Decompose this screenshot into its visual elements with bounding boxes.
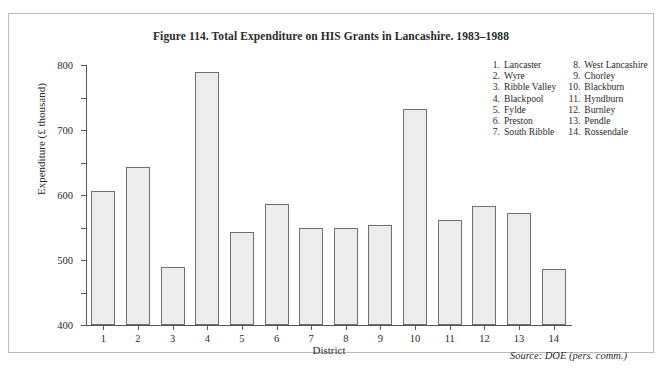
x-axis-tick (207, 325, 208, 330)
y-axis-tick: 800 (81, 65, 86, 66)
bar (230, 232, 254, 325)
x-axis-tick (380, 325, 381, 330)
bar (542, 269, 566, 325)
y-axis-tick-label: 600 (57, 190, 73, 201)
bar (507, 213, 531, 325)
x-axis-tick-label: 7 (309, 333, 314, 344)
legend-item: 9. Chorley (565, 70, 647, 81)
y-axis-tick: 100 (81, 293, 86, 294)
x-axis-line (86, 325, 572, 326)
x-axis-tick-label: 3 (170, 333, 175, 344)
bar (91, 191, 115, 325)
x-axis-tick (346, 325, 347, 330)
figure-title: Figure 114. Total Expenditure on HIS Gra… (9, 30, 653, 42)
y-axis-title: Expenditure (£ thousand) (35, 83, 47, 195)
x-axis-tick (242, 325, 243, 330)
y-axis-tick: 700 (81, 98, 86, 99)
y-axis-tick-label: 500 (57, 255, 73, 266)
y-axis-tick: 500 (81, 163, 86, 164)
bar (299, 228, 323, 326)
bar (368, 225, 392, 325)
x-axis-tick (519, 325, 520, 330)
x-axis-tick-label: 4 (205, 333, 210, 344)
legend-item-label: Chorley (584, 70, 615, 81)
x-axis-tick (484, 325, 485, 330)
bar (472, 206, 496, 325)
y-axis-tick: 0 (81, 325, 86, 326)
x-axis-tick-label: 14 (548, 333, 559, 344)
y-axis-tick: 400 (81, 195, 86, 196)
x-axis-tick-label: 11 (445, 333, 455, 344)
x-axis-tick (311, 325, 312, 330)
x-axis-tick-label: 1 (101, 333, 106, 344)
x-axis-title: District (86, 344, 572, 356)
plot-area: 0100200300400500600700800 12345678910111… (86, 65, 571, 325)
y-axis-tick: 600 (81, 130, 86, 131)
bar (438, 220, 462, 325)
x-axis-tick (138, 325, 139, 330)
bar (403, 109, 427, 325)
y-axis-line (86, 65, 87, 326)
y-axis-tick: 300 (81, 228, 86, 229)
legend-item: 12. Burnley (565, 104, 647, 115)
x-axis-tick-label: 10 (410, 333, 421, 344)
legend-item: 14. Rossendale (565, 126, 647, 137)
x-axis-tick (103, 325, 104, 330)
x-axis-tick (554, 325, 555, 330)
x-axis-tick (277, 325, 278, 330)
y-axis-tick-label: 700 (57, 125, 73, 136)
x-axis-tick-label: 8 (343, 333, 348, 344)
x-axis-tick-label: 9 (378, 333, 383, 344)
y-axis-tick-label: 400 (57, 320, 73, 331)
x-axis-tick-label: 13 (514, 333, 525, 344)
legend-item-label: Pendle (584, 115, 610, 126)
source-note: Source: DOE (pers. comm.) (510, 350, 627, 361)
legend-item-label: Burnley (584, 104, 615, 115)
bar (161, 267, 185, 325)
legend-item: 10. Blackburn (565, 81, 647, 92)
bar (195, 72, 219, 325)
y-axis-tick: 200 (81, 260, 86, 261)
x-axis-tick-label: 2 (135, 333, 140, 344)
x-axis-tick-label: 5 (239, 333, 244, 344)
legend-item-label: Blackburn (584, 81, 624, 92)
legend-item-label: Rossendale (584, 126, 628, 137)
legend-item: 13. Pendle (565, 115, 647, 126)
bar (265, 204, 289, 325)
bar (334, 228, 358, 326)
legend-item: 8. West Lancashire (565, 59, 647, 70)
bar (126, 167, 150, 325)
x-axis-tick (415, 325, 416, 330)
x-axis-tick-label: 6 (274, 333, 279, 344)
legend-column-right: 8. West Lancashire 9. Chorley 10. Blackb… (565, 59, 647, 137)
legend-item-label: Hyndburn (584, 93, 623, 104)
y-axis-tick-label: 800 (57, 60, 73, 71)
legend-item: 11. Hyndburn (565, 93, 647, 104)
figure-frame: Figure 114. Total Expenditure on HIS Gra… (8, 13, 654, 353)
legend-item-label: West Lancashire (584, 59, 647, 70)
x-axis-tick (173, 325, 174, 330)
x-axis-tick-label: 12 (479, 333, 490, 344)
x-axis-tick (450, 325, 451, 330)
